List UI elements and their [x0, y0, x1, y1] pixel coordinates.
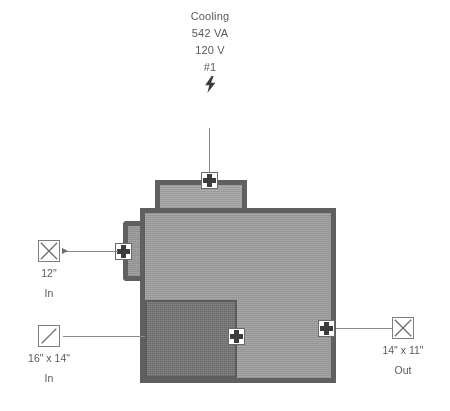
- right-connection-node[interactable]: [318, 320, 335, 337]
- unit-name: Cooling: [137, 8, 283, 25]
- left-upper-connector-line: [62, 251, 118, 252]
- left-lower-connector-line: [63, 336, 145, 337]
- cooling-unit-label: Cooling 542 VA 120 V #1: [137, 8, 283, 97]
- unit-circuit: #1: [137, 59, 283, 76]
- texture-overlay: [147, 302, 235, 376]
- round-duct-icon-left-upper[interactable]: [38, 240, 60, 262]
- unit-voltage: 120 V: [137, 42, 283, 59]
- rectangular-duct-icon-left-lower[interactable]: [38, 325, 60, 347]
- left-upper-arrowhead: [62, 248, 68, 254]
- right-duct-label: 14" x 11" Out: [360, 341, 446, 381]
- left-upper-duct-label: 12" In: [14, 264, 84, 304]
- duct-direction: Out: [360, 361, 446, 381]
- bottom-connection-node[interactable]: [228, 328, 245, 345]
- duct-size: 16" x 14": [6, 349, 92, 369]
- duct-size: 14" x 11": [360, 341, 446, 361]
- right-connector-line: [336, 328, 392, 329]
- diagram-canvas: Cooling 542 VA 120 V #1: [0, 0, 450, 411]
- top-connection-node[interactable]: [201, 172, 218, 189]
- duct-size: 12": [14, 264, 84, 284]
- lightning-bolt-icon: [137, 76, 283, 97]
- left-lower-duct-label: 16" x 14" In: [6, 349, 92, 389]
- round-duct-icon-right[interactable]: [392, 317, 414, 339]
- duct-direction: In: [6, 369, 92, 389]
- duct-direction: In: [14, 284, 84, 304]
- inner-coil-section: [145, 300, 237, 378]
- unit-power: 542 VA: [137, 25, 283, 42]
